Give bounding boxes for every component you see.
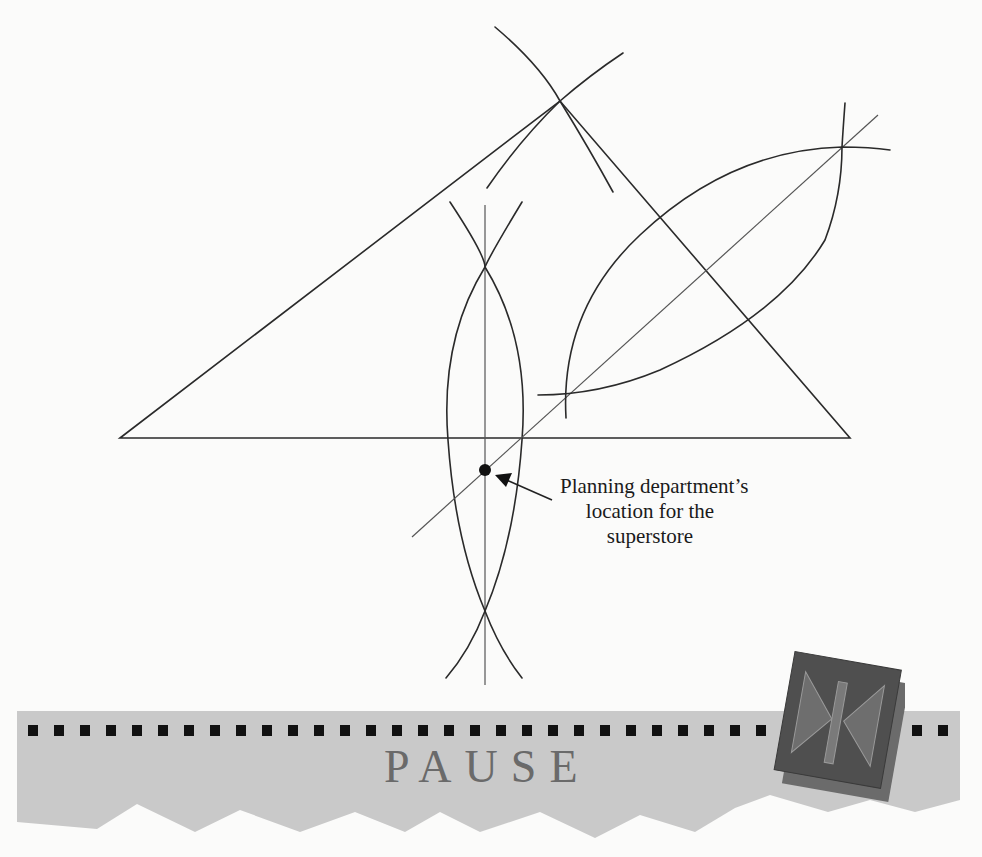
arrowhead-icon <box>495 473 512 487</box>
callout-line-3: superstore <box>560 524 740 549</box>
lens-right-arc <box>485 202 523 678</box>
callout-arrow-line <box>502 478 552 500</box>
pause-button[interactable] <box>770 650 905 810</box>
lens-left-arc <box>446 202 485 678</box>
location-dot <box>479 464 491 476</box>
apex-arc-2 <box>487 53 623 188</box>
callout-line-1: Planning department’s <box>560 474 740 499</box>
ellipse-lower-arc <box>538 103 845 395</box>
apex-arc-1 <box>495 27 613 192</box>
pause-icon <box>770 650 905 810</box>
callout-line-2: location for the <box>560 499 740 524</box>
ellipse-upper-arc <box>566 147 890 418</box>
location-callout: Planning department’s location for the s… <box>560 474 740 549</box>
pause-label: PAUSE <box>384 742 590 792</box>
